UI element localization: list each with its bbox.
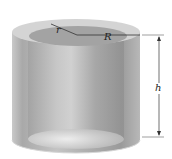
inner-bottom-face: [28, 129, 124, 149]
hollow-cylinder-diagram: r R h: [0, 0, 172, 159]
label-R: R: [103, 31, 112, 42]
arrow-down-icon: [157, 131, 161, 136]
label-h: h: [155, 82, 161, 93]
arrow-up-icon: [157, 36, 161, 41]
inner-top-face: [29, 26, 127, 46]
